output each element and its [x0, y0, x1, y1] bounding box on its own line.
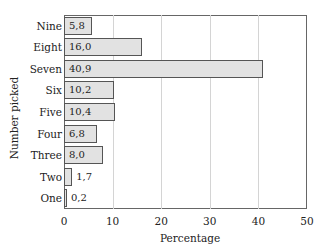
x-tick-label: 10 — [106, 215, 119, 227]
y-category-label: Seven — [30, 63, 62, 75]
bar-chart: 5,816,040,910,210,46,88,01,70,2 NineEigh… — [0, 0, 327, 252]
x-tick-label: 30 — [203, 215, 216, 227]
y-category-label: Eight — [33, 41, 62, 53]
bar-value-label: 10,4 — [69, 103, 91, 121]
y-axis-label: Number picked — [8, 77, 20, 159]
bar-value-label: 40,9 — [69, 60, 91, 78]
gridline — [258, 15, 259, 209]
bar-value-label: 0,2 — [71, 189, 87, 207]
bar — [64, 189, 67, 207]
gridline — [210, 15, 211, 209]
bar — [64, 60, 263, 78]
x-tick-label: 40 — [252, 215, 265, 227]
bar-value-label: 6,8 — [69, 125, 85, 143]
y-category-label: Four — [37, 128, 62, 140]
y-category-label: One — [40, 192, 62, 204]
bar-value-label: 5,8 — [69, 17, 85, 35]
x-tick-label: 50 — [300, 215, 313, 227]
y-category-label: Three — [31, 149, 62, 161]
x-axis-label: Percentage — [160, 232, 220, 244]
bar-value-label: 8,0 — [69, 146, 85, 164]
x-tick-label: 0 — [61, 215, 68, 227]
bar-value-label: 16,0 — [69, 38, 91, 56]
y-category-label: Nine — [36, 20, 62, 32]
bar-value-label: 10,2 — [69, 81, 91, 99]
y-category-label: Six — [46, 84, 62, 96]
y-category-label: Five — [39, 106, 62, 118]
x-tick-label: 20 — [155, 215, 168, 227]
bar — [64, 168, 72, 186]
gridline — [161, 15, 162, 209]
y-category-label: Two — [40, 171, 62, 183]
bar-value-label: 1,7 — [76, 168, 92, 186]
